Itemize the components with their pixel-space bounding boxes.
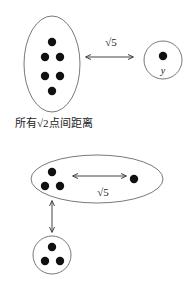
bottom-diagram: √5 [31,155,163,274]
dot [48,87,56,95]
lower-cluster-dots [41,243,64,265]
single-node-dot [159,52,167,60]
dot [56,72,64,80]
dot [41,72,49,80]
dot [48,243,56,251]
dot [56,53,64,61]
merged-cluster-dots [41,168,64,190]
diagram-canvas: √5 y 所有√2点间距离 √5 [0,0,195,286]
dot [41,182,49,190]
dot [41,257,49,265]
merged-single-dot [130,175,138,183]
dot [56,182,64,190]
dot [48,38,56,46]
edge-label-sqrt5-bottom: √5 [97,186,109,198]
top-diagram: √5 y 所有√2点间距离 [15,16,182,129]
edge-label-sqrt5-top: √5 [105,36,117,48]
sqrt2-group-dots [41,38,64,95]
group-caption: 所有√2点间距离 [15,116,93,129]
single-node-label: y [160,65,166,76]
dot [41,53,49,61]
dot [56,257,64,265]
sqrt2-group-ellipse [24,16,80,112]
dot [48,168,56,176]
lower-cluster-circle [33,236,71,274]
